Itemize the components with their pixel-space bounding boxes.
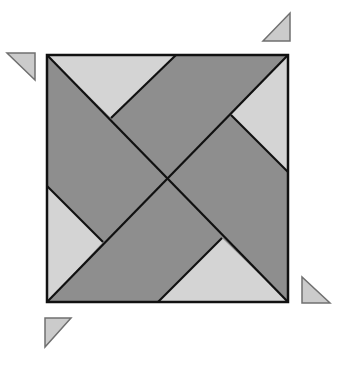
small-triangle-bottom-right [302, 277, 330, 303]
small-triangle-top-right [263, 13, 290, 41]
tangram-diagram [0, 0, 346, 373]
small-triangle-top-left [7, 53, 35, 80]
small-triangle-bottom-left [45, 318, 71, 347]
